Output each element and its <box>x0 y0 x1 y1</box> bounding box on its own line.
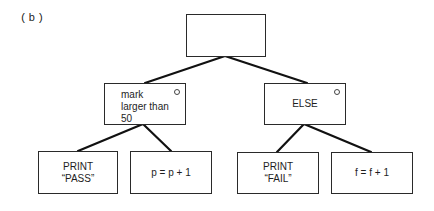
root-node <box>186 14 266 57</box>
edge-root-else <box>225 56 307 83</box>
print-pass-node: PRINT “PASS” <box>38 151 118 194</box>
edge-else-f <box>304 124 371 152</box>
edge-condition-p <box>143 124 171 151</box>
increment-p-node: p = p + 1 <box>130 151 212 194</box>
condition-line-2: larger than <box>121 101 169 113</box>
edge-root-condition <box>145 56 225 83</box>
print-pass-line-2: “PASS” <box>62 173 95 185</box>
increment-f-node: f = f + 1 <box>331 152 413 194</box>
print-pass-line-1: PRINT <box>62 161 95 173</box>
increment-f-label: f = f + 1 <box>355 167 389 179</box>
selection-circle-icon <box>334 89 340 95</box>
increment-p-label: p = p + 1 <box>151 167 190 179</box>
condition-node: mark larger than 50 <box>104 83 186 125</box>
jackson-structure-diagram: (b) mark larger than 50 ELSE PRINT “PASS… <box>0 0 434 211</box>
condition-line-3: 50 <box>121 113 169 125</box>
else-node: ELSE <box>264 83 346 125</box>
edge-condition-pass <box>78 124 143 151</box>
print-fail-line-2: “FAIL” <box>263 173 293 185</box>
condition-line-1: mark <box>121 89 169 101</box>
else-node-label: ELSE <box>292 98 318 110</box>
print-fail-node: PRINT “FAIL” <box>237 152 319 194</box>
edge-else-fail <box>277 124 304 152</box>
selection-circle-icon <box>174 89 180 95</box>
print-fail-line-1: PRINT <box>263 161 293 173</box>
